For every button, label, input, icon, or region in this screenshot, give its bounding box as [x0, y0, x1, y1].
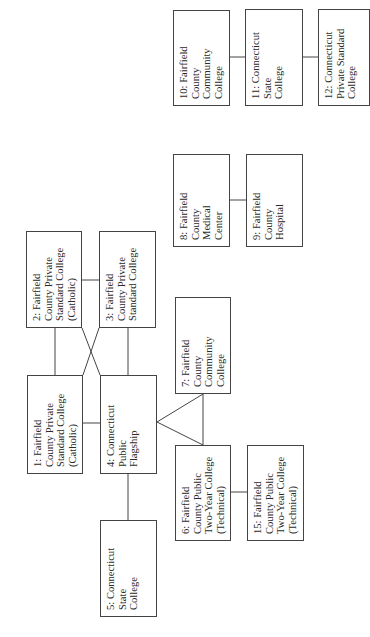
node-9-label: 9: Fairfield County Hospital — [251, 193, 286, 240]
node-15: 15: Fairfield County Public Two-Year Col… — [247, 445, 304, 541]
node-6-label: 6: Fairfield County Public Two-Year Coll… — [180, 457, 226, 534]
node-3: 3: Fairfield County Private Standard Col… — [99, 231, 156, 328]
node-8-label: 8: Fairfield County Medical Center — [178, 193, 224, 240]
edge-4-6 — [157, 422, 203, 445]
node-6: 6: Fairfield County Public Two-Year Coll… — [175, 445, 231, 541]
node-2: 2: Fairfield County Private Standard Col… — [26, 231, 82, 328]
node-12: 12: Connecticut Private Standard College — [318, 9, 370, 106]
node-3-label: 3: Fairfield County Private Standard Col… — [104, 248, 139, 321]
node-4-label: 4: Connecticut Public Flagship — [105, 405, 140, 467]
edge-3-1 — [83, 328, 99, 375]
edge-4-7 — [157, 394, 203, 422]
node-11-label: 11: Connecticut State College — [250, 32, 285, 99]
node-8: 8: Fairfield County Medical Center — [173, 154, 230, 247]
node-10-label: 10: Fairfield County Community College — [178, 46, 224, 99]
node-1-label: 1: Fairfield County Private Standard Col… — [32, 394, 78, 467]
node-7-label: 7: Fairfield County Community College — [180, 336, 226, 387]
node-12-label: 12: Connecticut Private Standard College — [323, 29, 358, 99]
node-10: 10: Fairfield County Community College — [173, 10, 230, 106]
node-9: 9: Fairfield County Hospital — [246, 154, 303, 247]
node-1: 1: Fairfield County Private Standard Col… — [27, 375, 83, 474]
node-5-label: 5: Connecticut State College — [105, 548, 140, 610]
node-4: 4: Connecticut Public Flagship — [100, 375, 157, 474]
node-2-label: 2: Fairfield County Private Standard Col… — [31, 248, 77, 321]
node-11: 11: Connecticut State College — [245, 9, 303, 106]
node-5: 5: Connecticut State College — [100, 520, 157, 617]
node-15-label: 15: Fairfield County Public Two-Year Col… — [252, 457, 298, 534]
node-7: 7: Fairfield County Community College — [175, 297, 231, 394]
